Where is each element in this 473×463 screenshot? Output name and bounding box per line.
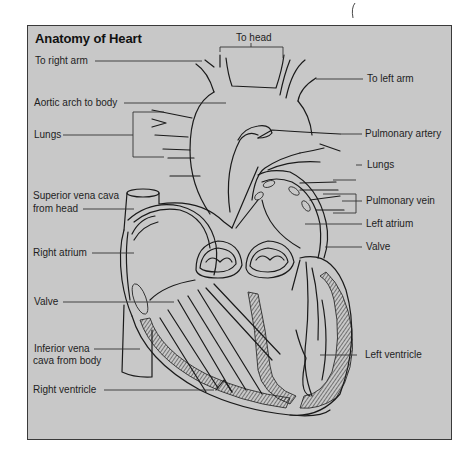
inferior-vena-cava <box>122 305 152 377</box>
label-right-atrium: Right atrium <box>33 247 87 259</box>
right-ventricle <box>132 280 330 416</box>
label-to-left-arm: To left arm <box>367 73 414 85</box>
label-inferior-vena-cava: Inferior vena <box>34 343 90 355</box>
lung-vessels-left <box>152 110 200 176</box>
label-lungs-right: Lungs <box>367 159 394 171</box>
label-to-right-arm: To right arm <box>35 55 88 67</box>
label-lungs-left: Lungs <box>34 129 61 141</box>
label-left-atrium: Left atrium <box>366 218 413 230</box>
label-inferior-vena-cava-from-body: cava from body <box>33 355 101 367</box>
label-right-ventricle: Right ventricle <box>33 384 96 396</box>
label-aortic-arch: Aortic arch to body <box>34 97 117 109</box>
heart-valves <box>196 241 294 278</box>
label-pulmonary-artery: Pulmonary artery <box>365 128 441 140</box>
label-pulmonary-vein: Pulmonary vein <box>366 195 435 207</box>
pen-mark <box>352 3 355 18</box>
label-valve-left: Valve <box>34 296 58 308</box>
label-superior-vena-cava: Superior vena cava <box>33 190 119 202</box>
lung-vessels-right <box>268 162 344 210</box>
label-to-head: To head <box>236 32 272 44</box>
label-left-ventricle: Left ventricle <box>365 349 422 361</box>
left-ventricle <box>248 257 353 416</box>
diagram-title: Anatomy of Heart <box>35 31 142 46</box>
label-valve-right: Valve <box>366 241 390 253</box>
label-superior-vena-cava-from-head: from head <box>33 203 78 215</box>
